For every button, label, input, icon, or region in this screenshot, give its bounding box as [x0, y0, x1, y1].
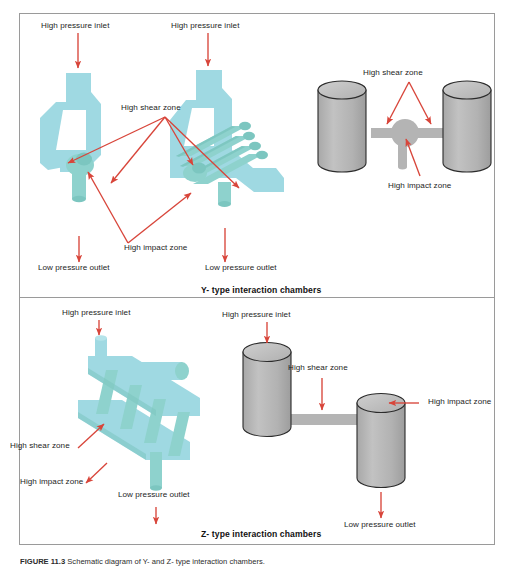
label-z-cyl-outlet: Low pressure outlet	[344, 521, 416, 529]
label-y-middle-outlet: Low pressure outlet	[205, 264, 277, 272]
label-z-chamber-shear-zone: High shear zone	[10, 442, 70, 450]
figure-caption-text: Schematic diagram of Y- and Z- type inte…	[67, 557, 265, 566]
z-chamber-shape	[78, 335, 200, 491]
label-z-chamber-impact-zone: High impact zone	[20, 478, 83, 486]
label-y-impact-zone: High impact zone	[124, 244, 187, 252]
figure-caption: FIGURE 11.3 Schematic diagram of Y- and …	[20, 557, 500, 566]
label-y-left-outlet: Low pressure outlet	[38, 264, 110, 272]
figure-caption-label: FIGURE 11.3	[20, 557, 65, 566]
label-y-cyl-shear-zone: High shear zone	[363, 69, 423, 77]
label-z-cyl-shear-zone: High shear zone	[288, 364, 348, 372]
y-chamber-left-shape	[40, 73, 101, 202]
label-z-cyl-inlet: High pressure inlet	[222, 311, 290, 319]
label-y-left-inlet: High pressure inlet	[41, 22, 109, 30]
y-cylinder-model	[318, 81, 491, 172]
label-z-chamber-inlet: High pressure inlet	[62, 309, 130, 317]
label-z-chamber-outlet: Low pressure outlet	[118, 491, 190, 499]
label-y-cyl-impact-zone: High impact zone	[388, 182, 451, 190]
label-y-middle-inlet: High pressure inlet	[171, 22, 239, 30]
label-y-shear-zone: High shear zone	[121, 104, 181, 112]
section-title-y-type: Y- type interaction chambers	[201, 285, 321, 295]
section-title-z-type: Z- type interaction chambers	[201, 529, 321, 539]
label-z-cyl-impact-zone: High impact zone	[428, 398, 491, 406]
figure-page: High pressure inlet High pressure inlet …	[0, 0, 515, 570]
